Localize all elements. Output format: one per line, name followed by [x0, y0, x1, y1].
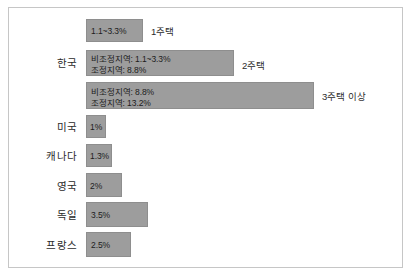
- category-label-canada: 캐나다: [15, 150, 77, 162]
- chart-plot-frame: 한국 1.1~3.3% 1주택 비조정지역: 1.1~3.3% 조정지역: 8.…: [8, 7, 403, 268]
- bar-label-korea-2house-line2: 조정지역: 8.8%: [91, 65, 170, 76]
- chart-figure: 한국 1.1~3.3% 1주택 비조정지역: 1.1~3.3% 조정지역: 8.…: [0, 0, 411, 275]
- bar-label-korea-3house-line2: 조정지역: 13.2%: [91, 98, 154, 109]
- annotation-3house: 3주택 이상: [322, 91, 367, 102]
- category-label-germany: 독일: [21, 209, 77, 221]
- annotation-1house: 1주택: [151, 26, 175, 37]
- category-label-korea: 한국: [21, 57, 77, 69]
- bar-label-canada: 1.3%: [90, 151, 109, 162]
- bar-label-korea-1house: 1.1~3.3%: [91, 26, 126, 37]
- bar-label-korea-2house: 비조정지역: 1.1~3.3% 조정지역: 8.8%: [91, 54, 170, 76]
- bar-label-france: 2.5%: [91, 240, 110, 251]
- annotation-2house: 2주택: [242, 60, 266, 71]
- category-label-uk: 영국: [21, 180, 77, 192]
- bar-label-korea-2house-line1: 비조정지역: 1.1~3.3%: [91, 54, 170, 65]
- bar-label-uk: 2%: [90, 181, 102, 192]
- bar-label-usa: 1%: [90, 122, 102, 133]
- bar-label-korea-3house-line1: 비조정지역: 8.8%: [91, 87, 154, 98]
- bar-label-germany: 3.5%: [91, 210, 110, 221]
- category-label-usa: 미국: [21, 121, 77, 133]
- category-label-france: 프랑스: [13, 239, 77, 251]
- bar-label-korea-3house: 비조정지역: 8.8% 조정지역: 13.2%: [91, 87, 154, 109]
